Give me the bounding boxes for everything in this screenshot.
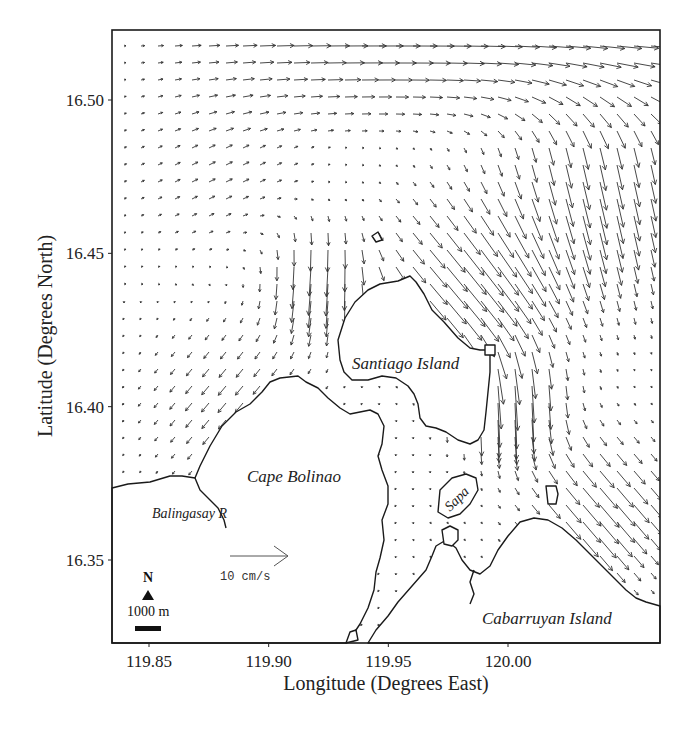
current-vector-arrow [260, 77, 272, 80]
current-vector-arrow [396, 147, 398, 149]
current-vector-arrow [651, 318, 653, 323]
current-vector-arrow [175, 129, 181, 131]
current-vector-arrow [124, 130, 126, 132]
current-vector-arrow [240, 318, 243, 323]
current-vector-arrow [294, 44, 313, 48]
current-vector-arrow [634, 488, 648, 504]
current-vector-arrow [123, 454, 125, 456]
current-vector-arrow [209, 179, 215, 182]
current-vector-arrow [260, 145, 265, 148]
current-vector-arrow [634, 420, 637, 424]
current-vector-arrow [122, 386, 124, 388]
current-vector-arrow [633, 369, 635, 371]
current-vector-arrow [430, 148, 432, 150]
current-vector-arrow [395, 420, 397, 422]
current-vector-arrow [189, 335, 192, 339]
current-vector-arrow [566, 505, 581, 523]
current-vector-arrow [481, 318, 499, 341]
current-vector-arrow [549, 352, 554, 367]
current-vector-arrow [379, 78, 396, 82]
current-vector-arrow [498, 318, 514, 341]
current-vector-arrow [634, 505, 649, 523]
current-vector-arrow [203, 369, 209, 377]
current-vector-arrow [447, 96, 460, 99]
current-vector-arrow [464, 539, 466, 541]
current-vector-arrow [378, 590, 380, 592]
current-vector-arrow [395, 471, 397, 473]
current-vector-arrow [273, 352, 277, 359]
current-vector-arrow [447, 301, 466, 324]
current-vector-arrow [566, 233, 575, 260]
current-vector-arrow [192, 128, 199, 131]
current-vector-arrow [141, 79, 145, 81]
current-vector-arrow [379, 95, 392, 98]
label-balingasay-river: Balingasay R [152, 506, 227, 521]
current-vector-arrow [549, 233, 559, 259]
current-vector-arrow [480, 471, 482, 476]
current-vector-arrow [412, 522, 414, 524]
current-vector-arrow [396, 216, 401, 222]
current-vector-arrow [498, 352, 507, 379]
current-vector-arrow [379, 164, 381, 166]
current-vector-arrow [123, 335, 125, 337]
current-vector-arrow [498, 114, 508, 119]
current-vector-arrow [123, 471, 125, 473]
current-vector-arrow [156, 471, 158, 473]
current-vector-arrow [532, 488, 539, 498]
current-vector-arrow [326, 386, 328, 389]
current-vector-arrow [260, 179, 265, 182]
current-vector-arrow [583, 369, 585, 375]
x-tick-label: 119.85 [126, 652, 172, 671]
current-vector-arrow [192, 284, 194, 286]
current-vector-arrow [175, 197, 180, 199]
current-vector-arrow [155, 454, 158, 457]
current-vector-arrow [226, 61, 237, 64]
current-vector-arrow [225, 284, 227, 286]
current-vector-arrow [515, 267, 533, 294]
current-vector-arrow [311, 95, 323, 98]
current-vector-arrow [170, 420, 175, 426]
current-vector-arrow [260, 233, 263, 235]
current-vector-arrow [549, 284, 559, 304]
current-vector-arrow [155, 352, 158, 355]
current-vector-arrow [141, 215, 144, 217]
current-vector-arrow [396, 182, 398, 184]
current-vector-arrow [498, 505, 500, 508]
current-vector-arrow [651, 267, 655, 281]
current-vector-arrow [209, 78, 218, 81]
current-vector-arrow [430, 539, 432, 541]
current-vector-arrow [617, 114, 628, 127]
current-vector-arrow [345, 130, 350, 132]
current-vector-arrow [243, 44, 257, 48]
current-vector-arrow [203, 437, 209, 444]
current-vector-arrow [600, 488, 617, 508]
current-vector-arrow [343, 250, 347, 269]
current-vector-arrow [274, 318, 277, 329]
current-vector-arrow [447, 148, 449, 151]
current-vector-arrow [481, 131, 487, 136]
current-vector-arrow [430, 233, 442, 248]
current-vector-arrow [429, 488, 431, 490]
current-vector-arrow [430, 284, 447, 305]
current-vector-arrow [464, 250, 484, 275]
current-vector-arrow [634, 301, 637, 310]
current-vector-arrow [396, 199, 399, 203]
current-vector-arrow [186, 386, 192, 394]
current-vector-arrow [617, 352, 619, 355]
current-vector-arrow [141, 232, 143, 234]
current-vector-arrow [255, 352, 260, 359]
current-vector-arrow [185, 403, 192, 411]
current-vector-arrow [243, 232, 247, 234]
current-vector-arrow [209, 214, 214, 216]
current-vector-arrow [141, 163, 144, 165]
current-vector-arrow [532, 165, 538, 182]
current-vector-arrow [617, 301, 621, 312]
current-vector-arrow [189, 471, 192, 475]
current-vector-arrow [209, 266, 211, 268]
current-vector-arrow [226, 94, 235, 97]
current-vector-arrow [515, 233, 529, 258]
north-label: N [143, 570, 153, 585]
current-vector-arrow [395, 556, 397, 558]
current-vector-arrow [243, 145, 249, 148]
current-vector-arrow [202, 386, 209, 395]
